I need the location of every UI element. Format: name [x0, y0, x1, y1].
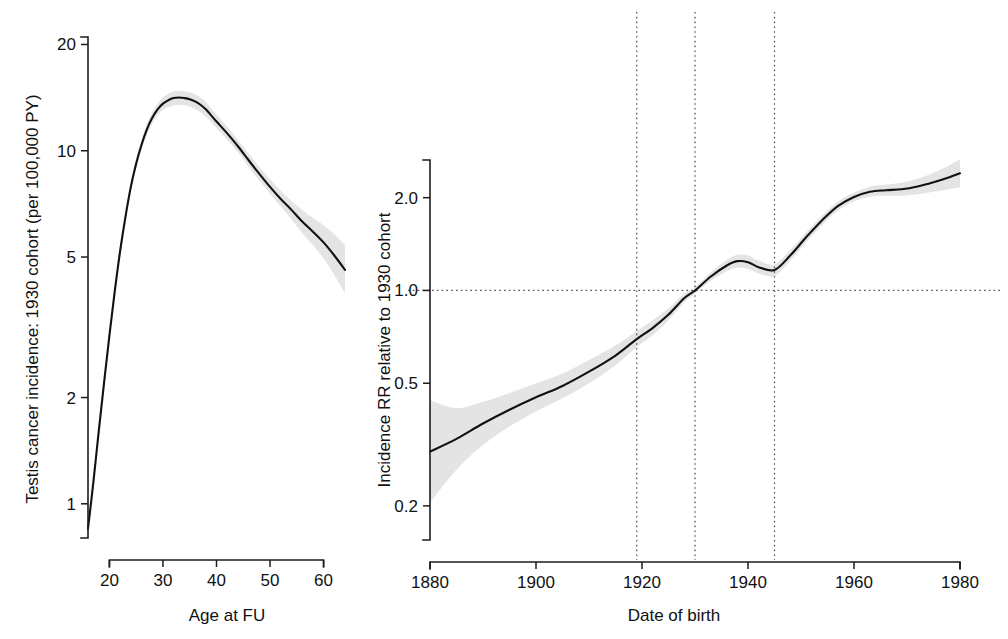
right-x-tick-group: 188019001920194019601980 — [411, 562, 979, 592]
left-confidence-band — [88, 91, 345, 533]
left-panel-ci-band — [88, 91, 345, 533]
right-panel-ci-band — [430, 159, 960, 502]
y-tick-label: 1.0 — [394, 281, 418, 300]
y-tick-label: 1 — [67, 495, 76, 514]
y-tick-label: 2.0 — [394, 189, 418, 208]
left-panel: 1251020 2030405060 Testis cancer inciden… — [23, 35, 345, 625]
y-tick-label: 20 — [57, 35, 76, 54]
x-tick-label: 1940 — [729, 573, 767, 592]
y-tick-label: 0.2 — [394, 497, 418, 516]
left-x-axis-title: Age at FU — [189, 606, 266, 625]
right-x-axis-spine — [430, 562, 960, 569]
right-reference-lines — [408, 12, 1003, 560]
x-tick-label: 1880 — [411, 573, 449, 592]
left-incidence-curve — [88, 98, 345, 529]
left-y-axis: 1251020 — [57, 35, 88, 538]
right-y-axis-spine — [423, 160, 430, 540]
right-y-axis: 0.20.51.02.0 — [394, 160, 430, 540]
x-tick-label: 1900 — [517, 573, 555, 592]
left-x-tick-group: 2030405060 — [100, 560, 333, 590]
x-tick-label: 1960 — [835, 573, 873, 592]
left-y-tick-group: 1251020 — [57, 35, 88, 513]
x-tick-label: 60 — [314, 571, 333, 590]
x-tick-label: 50 — [261, 571, 280, 590]
right-y-axis-title: Incidence RR relative to 1930 cohort — [375, 212, 394, 487]
y-tick-label: 10 — [57, 142, 76, 161]
left-x-axis: 2030405060 — [100, 560, 333, 590]
x-tick-label: 1920 — [623, 573, 661, 592]
two-panel-figure: 1251020 2030405060 Testis cancer inciden… — [0, 0, 1008, 639]
x-tick-label: 20 — [100, 571, 119, 590]
left-y-axis-title: Testis cancer incidence: 1930 cohort (pe… — [23, 94, 42, 503]
x-tick-label: 1980 — [941, 573, 979, 592]
right-confidence-band — [430, 159, 960, 502]
x-tick-label: 40 — [207, 571, 226, 590]
right-x-axis: 188019001920194019601980 — [411, 562, 979, 592]
figure-container: 1251020 2030405060 Testis cancer inciden… — [0, 0, 1008, 639]
left-y-axis-spine — [81, 37, 88, 538]
right-y-tick-group: 0.20.51.02.0 — [394, 189, 430, 516]
left-panel-curve — [88, 98, 345, 529]
y-tick-label: 5 — [67, 248, 76, 267]
x-tick-label: 30 — [153, 571, 172, 590]
right-x-axis-title: Date of birth — [628, 606, 721, 625]
right-panel: 0.20.51.02.0 188019001920194019601980 In… — [375, 12, 1003, 625]
y-tick-label: 0.5 — [394, 374, 418, 393]
y-tick-label: 2 — [67, 389, 76, 408]
